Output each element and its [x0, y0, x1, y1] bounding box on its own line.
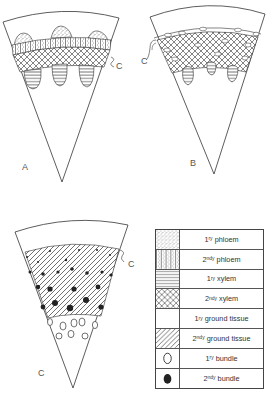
- panel-c: [15, 220, 128, 388]
- blank-swatch-icon: [156, 309, 180, 328]
- panel-b: [146, 6, 265, 174]
- legend-row: 1ry ground tissue: [156, 309, 263, 329]
- legend-row: 2ndy phloem: [156, 250, 263, 270]
- legend-row: 2ndy xylem: [156, 289, 263, 309]
- stipple-swatch-icon: [156, 230, 180, 249]
- panel-a: [3, 11, 119, 182]
- open-circle-swatch-icon: [156, 349, 180, 368]
- panel-b-cambium-label: C: [141, 56, 148, 66]
- legend-row: 2ndy ground tissue: [156, 329, 263, 349]
- filled-circle-swatch-icon: [156, 369, 180, 389]
- panel-a-label: A: [22, 162, 28, 172]
- legend-row: 2ndy bundle: [156, 369, 263, 389]
- legend-row: 1ry phloem: [156, 230, 263, 250]
- diagonal-lines-swatch-icon: [156, 329, 180, 348]
- legend: 1ry phloem 2ndy phloem 1ry xylem 2ndy xy…: [155, 229, 264, 389]
- legend-row: 1ry xylem: [156, 270, 263, 290]
- panel-b-label: B: [190, 158, 196, 168]
- panel-c-label: C: [38, 368, 45, 378]
- cambium-pointer: [111, 57, 114, 67]
- cross-hatch-swatch-icon: [156, 289, 180, 308]
- stipple-vertical-swatch-icon: [156, 250, 180, 269]
- panel-a-cambium-label: C: [116, 61, 123, 71]
- panel-c-cambium-label: C: [128, 259, 135, 269]
- cambium-pointer: [120, 250, 124, 262]
- horizontal-lines-swatch-icon: [156, 270, 180, 289]
- legend-row: 1ry bundle: [156, 349, 263, 369]
